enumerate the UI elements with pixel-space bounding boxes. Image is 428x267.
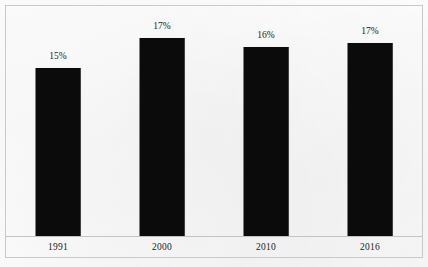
bar-chart: 15% 17% 16% 17% 1991 2000 2010 2016: [0, 0, 428, 267]
bar-1991[interactable]: [36, 68, 81, 236]
category-axis-line: [6, 236, 422, 237]
tick-label-2000: 2000: [110, 240, 214, 254]
category-axis-labels: 1991 2000 2010 2016: [6, 240, 422, 256]
bar-group-4: 17%: [318, 6, 422, 236]
plot-area: 15% 17% 16% 17%: [6, 6, 422, 236]
tick-label-1991: 1991: [6, 240, 110, 254]
bar-2016[interactable]: [348, 43, 393, 236]
bar-2000[interactable]: [140, 38, 185, 236]
bar-group-2: 17%: [110, 6, 214, 236]
bar-value-label-3: 16%: [257, 30, 275, 41]
bar-value-label-2: 17%: [153, 21, 171, 32]
bar-2010[interactable]: [244, 47, 289, 236]
bar-value-label-1: 15%: [49, 51, 67, 62]
tick-label-2016: 2016: [318, 240, 422, 254]
bar-group-1: 15%: [6, 6, 110, 236]
bar-value-label-4: 17%: [361, 26, 379, 37]
bar-group-3: 16%: [214, 6, 318, 236]
tick-label-2010: 2010: [214, 240, 318, 254]
